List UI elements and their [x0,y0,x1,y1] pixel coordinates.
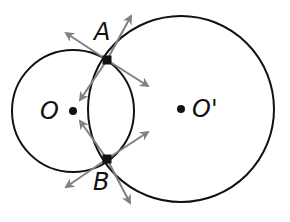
arrow-b-upper-right [107,132,148,159]
diagram-canvas: A B O O' [0,0,290,222]
label-a: A [94,20,110,44]
point-b [103,155,112,164]
center-o-dot [69,107,77,115]
label-o: O [40,99,59,123]
arrow-a-toward-o [80,60,107,100]
label-b: B [93,170,109,194]
arrow-a-upper-right [107,16,131,60]
center-o-prime-dot [177,105,185,113]
point-a [103,56,112,65]
arrow-b-toward-o [80,121,107,159]
label-o-prime: O' [192,97,218,121]
arrow-b-lower-right [107,159,130,203]
